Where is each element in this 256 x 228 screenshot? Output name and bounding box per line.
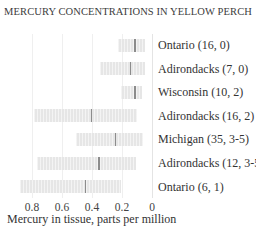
plot-area: 0.80.60.40.20Ontario (16, 0)Adirondacks … — [0, 0, 256, 228]
median-marker — [115, 133, 117, 146]
category-label: Ontario (16, 0) — [158, 38, 230, 52]
category-label: Adirondacks (16, 2) — [158, 109, 254, 123]
category-label: Michigan (35, 3-5) — [158, 132, 249, 146]
range-bar — [76, 133, 144, 146]
x-axis-label: Mercury in tissue, parts per million — [7, 212, 176, 227]
range-bar — [118, 39, 145, 52]
median-marker — [130, 62, 132, 75]
range-bar — [37, 157, 136, 170]
median-marker — [134, 86, 136, 99]
range-bar — [100, 62, 145, 75]
category-label: Ontario (6, 1) — [158, 180, 224, 194]
range-bar — [20, 180, 121, 193]
median-marker — [134, 39, 136, 52]
category-label: Wisconsin (10, 2) — [158, 85, 243, 99]
median-marker — [98, 157, 100, 170]
gridline — [152, 34, 153, 198]
range-bar — [34, 109, 138, 122]
range-bar — [121, 86, 142, 99]
median-marker — [91, 109, 93, 122]
median-marker — [85, 180, 87, 193]
category-label: Adirondacks (7, 0) — [158, 62, 248, 76]
category-label: Adirondacks (12, 3-5) — [158, 156, 256, 170]
